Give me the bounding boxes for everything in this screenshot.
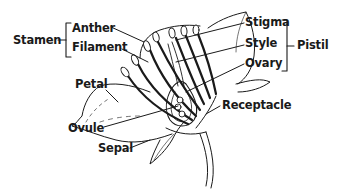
label-petal: Petal <box>75 79 107 91</box>
label-pistil: Pistil <box>297 40 328 52</box>
ovules <box>175 97 185 117</box>
label-filament: Filament <box>72 42 127 54</box>
label-receptacle: Receptacle <box>222 100 291 112</box>
label-ovary: Ovary <box>245 58 282 70</box>
label-anther: Anther <box>72 23 115 35</box>
label-sepal: Sepal <box>98 143 133 155</box>
label-stigma: Stigma <box>245 17 290 29</box>
label-ovule: Ovule <box>68 123 104 135</box>
label-style: Style <box>245 38 277 50</box>
label-stamen: Stamen <box>13 35 61 47</box>
stem <box>200 132 213 188</box>
flower-diagram: Stamen Anther Filament Petal Ovule Sepal… <box>0 0 341 196</box>
